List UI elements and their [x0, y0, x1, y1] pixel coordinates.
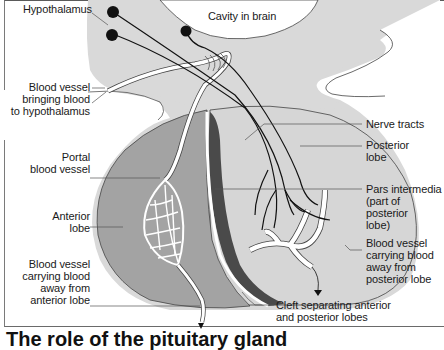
- label-cleft: Cleft separating anterior and posterior …: [276, 299, 391, 323]
- label-posterior-lobe: Posterior lobe: [366, 139, 409, 163]
- neuron-2: [106, 29, 118, 41]
- neuron-1: [107, 6, 119, 18]
- label-anterior-lobe: Anterior lobe: [8, 210, 90, 234]
- label-cavity-in-brain: Cavity in brain: [208, 10, 276, 22]
- label-blood-vessel-in: Blood vessel bringing blood to hypothala…: [8, 81, 90, 117]
- label-portal-blood-vessel: Portal blood vessel: [8, 151, 90, 175]
- figure-title: The role of the pituitary gland: [6, 328, 287, 350]
- label-nerve-tracts: Nerve tracts: [366, 118, 424, 130]
- neuron-3: [181, 26, 192, 37]
- label-vessel-out-anterior: Blood vessel carrying blood away from an…: [8, 258, 90, 306]
- label-pars-intermedia: Pars intermedia (part of posterior lobe): [366, 183, 444, 231]
- label-vessel-out-posterior: Blood vessel carrying blood away from po…: [366, 237, 434, 285]
- label-hypothalamus: Hypothalamus: [10, 3, 92, 15]
